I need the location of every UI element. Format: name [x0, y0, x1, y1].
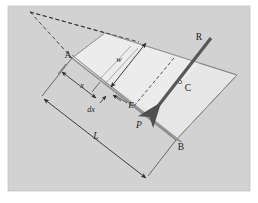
- centroid-point: [178, 80, 181, 83]
- label-w: w: [116, 55, 122, 64]
- plate-force-diagram: A B C R E P w x dx L: [0, 0, 258, 203]
- label-C: C: [185, 83, 191, 93]
- label-A: A: [65, 50, 72, 60]
- panel-top-shade: [8, 6, 250, 9]
- label-B: B: [178, 142, 184, 152]
- label-x: x: [79, 81, 84, 90]
- label-R: R: [196, 32, 203, 42]
- label-dx: dx: [87, 105, 95, 114]
- diagram-panel: A B C R E P w x dx L: [0, 0, 258, 203]
- figure-root: A B C R E P w x dx L: [0, 0, 258, 203]
- label-P: P: [135, 120, 142, 130]
- label-E: E: [127, 100, 134, 110]
- label-L: L: [92, 131, 98, 141]
